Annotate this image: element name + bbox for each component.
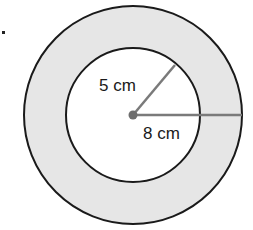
annulus-diagram: 5 cm 8 cm <box>0 0 253 230</box>
outer-radius-label: 8 cm <box>143 124 180 143</box>
center-point <box>129 111 138 120</box>
inner-radius-label: 5 cm <box>99 76 136 95</box>
bullet-dot <box>2 31 5 34</box>
